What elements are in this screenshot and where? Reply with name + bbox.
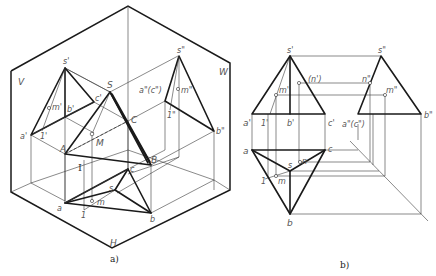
label-c-prime-b: c' [328, 119, 335, 128]
label-1-prime-b: 1' [261, 119, 268, 128]
diagram-b: s' (n') m' a' 1' b' c' s" n" m" a"(c") b… [243, 46, 433, 270]
label-b-dprime: b" [216, 127, 225, 136]
side-view-pyramid-b [358, 56, 421, 114]
label-m-dprime-b: m" [386, 86, 397, 95]
label-s-prime-b: s' [287, 46, 293, 55]
label-roman-I: I [78, 162, 82, 173]
label-S: S [107, 80, 113, 90]
label-B: B [151, 155, 157, 165]
front-view-pyramid-a [31, 68, 94, 135]
label-n-b: n [302, 157, 307, 166]
label-s-dprime-b: s" [378, 46, 386, 55]
label-n-dprime-b: n" [362, 75, 371, 84]
label-1-prime: 1' [40, 132, 47, 141]
label-s: s [109, 184, 113, 193]
point-m-dprime [176, 87, 179, 90]
label-a-prime-b: a' [243, 118, 251, 128]
label-b-dprime-b: b" [424, 111, 433, 120]
label-a-dprime-c-b: a"(c") [342, 120, 365, 129]
label-m-prime-b: m' [279, 86, 289, 95]
label-c: c [130, 165, 135, 174]
label-s-b: s [288, 161, 292, 170]
caption-a: a) [110, 254, 119, 264]
label-a: a [57, 204, 62, 213]
label-m: m [97, 198, 105, 207]
label-b-prime-b: b' [287, 119, 294, 128]
label-A: A [59, 144, 66, 154]
label-a-dprime-c: a"(c") [139, 86, 162, 95]
plane-label-V: V [18, 77, 25, 87]
plane-label-W: W [219, 67, 229, 77]
label-n-prime-hidden-b: (n') [308, 75, 322, 84]
miter-line-45 [350, 141, 428, 221]
point-m [90, 199, 93, 202]
label-c-b: c [328, 145, 333, 154]
frame-hexagon [11, 6, 230, 248]
labels-b: s' (n') m' a' 1' b' c' s" n" m" a"(c") b… [243, 46, 433, 270]
projection-figure: V W H s' m' b' c' a' 1' S C M A B I s" a… [0, 0, 436, 276]
label-C: C [131, 115, 138, 125]
label-a-prime: a' [20, 132, 27, 141]
top-view-pyramid-a [65, 169, 151, 213]
caption-b: b) [340, 260, 349, 270]
plane-label-H: H [110, 238, 117, 248]
label-1-dprime: 1" [167, 111, 176, 120]
label-a-b: a [243, 146, 249, 156]
label-m-b: m [278, 177, 286, 186]
label-M: M [96, 138, 104, 148]
point-m-prime-b [274, 93, 277, 96]
construction-lines-b [252, 56, 428, 221]
labels-a: V W H s' m' b' c' a' 1' S C M A B I s" a… [18, 46, 229, 264]
label-s-prime: s' [63, 57, 69, 66]
label-1: 1 [81, 211, 86, 220]
point-n-prime-b [297, 81, 300, 84]
label-b-prime: b' [67, 105, 74, 114]
label-s-dprime: s" [177, 46, 185, 55]
label-c-prime: c' [95, 94, 102, 103]
point-m-prime [47, 106, 50, 109]
label-b: b [150, 215, 155, 224]
label-m-dprime: m" [181, 86, 192, 95]
label-m-prime: m' [52, 103, 62, 112]
label-1-b: 1 [261, 177, 266, 186]
point-M [90, 132, 94, 136]
spatial-pyramid [65, 92, 151, 165]
label-b-b: b [287, 218, 293, 228]
diagram-a: V W H s' m' b' c' a' 1' S C M A B I s" a… [11, 6, 230, 264]
front-view-pyramid-b [252, 56, 325, 114]
